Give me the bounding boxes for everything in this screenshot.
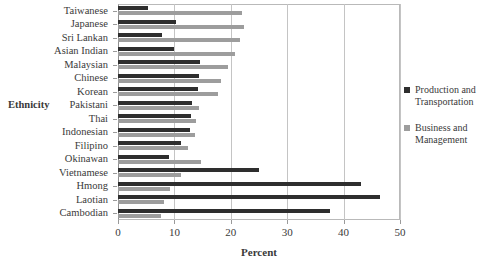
bar-business-management xyxy=(118,173,181,177)
x-axis-title: Percent xyxy=(118,246,400,258)
bar-row xyxy=(118,58,400,72)
x-tick xyxy=(118,220,119,224)
bar-business-management xyxy=(118,65,228,69)
bar-row xyxy=(118,166,400,180)
bar-business-management xyxy=(118,106,199,110)
bar-production-transportation xyxy=(118,209,330,213)
y-tick xyxy=(113,92,117,93)
bar-business-management xyxy=(118,160,201,164)
bar-row xyxy=(118,153,400,167)
bar-production-transportation xyxy=(118,74,199,78)
bar-business-management xyxy=(118,11,242,15)
y-tick-label: Vietnamese xyxy=(59,167,108,179)
y-tick-label: Taiwanese xyxy=(64,5,108,17)
bar-row xyxy=(118,4,400,18)
x-tick xyxy=(174,220,175,224)
bar-production-transportation xyxy=(118,128,190,132)
bar-row xyxy=(118,207,400,221)
y-tick xyxy=(113,159,117,160)
legend-item: Business and Management xyxy=(404,122,486,146)
y-tick-label: Indonesian xyxy=(62,126,108,138)
y-tick-label: Japanese xyxy=(71,18,108,30)
bar-production-transportation xyxy=(118,101,192,105)
legend-swatch-icon xyxy=(404,125,410,131)
y-tick-label: Thai xyxy=(89,113,108,125)
bar-row xyxy=(118,18,400,32)
y-tick-label: Hmong xyxy=(77,180,109,192)
x-tick-label: 30 xyxy=(267,226,307,238)
y-tick xyxy=(113,38,117,39)
bar-production-transportation xyxy=(118,6,148,10)
y-tick-label: Malaysian xyxy=(64,59,108,71)
y-tick xyxy=(113,146,117,147)
y-tick xyxy=(113,11,117,12)
gridline xyxy=(400,4,401,220)
y-axis-title: Ethnicity xyxy=(8,99,49,110)
bar-business-management xyxy=(118,92,218,96)
bar-row xyxy=(118,193,400,207)
bar-row xyxy=(118,31,400,45)
bar-business-management xyxy=(118,38,240,42)
y-tick xyxy=(113,119,117,120)
y-tick xyxy=(113,51,117,52)
legend-swatch-icon xyxy=(404,87,410,93)
bar-row xyxy=(118,85,400,99)
y-tick-label: Okinawan xyxy=(65,153,108,165)
bar-business-management xyxy=(118,200,164,204)
bar-row xyxy=(118,112,400,126)
y-tick xyxy=(113,173,117,174)
y-tick xyxy=(113,24,117,25)
legend-item: Production and Transportation xyxy=(404,84,486,108)
legend: Production and TransportationBusiness an… xyxy=(404,84,486,160)
bar-row xyxy=(118,45,400,59)
bar-rows xyxy=(118,4,400,220)
y-tick-label: Korean xyxy=(77,86,108,98)
x-tick xyxy=(287,220,288,224)
x-tick-label: 10 xyxy=(154,226,194,238)
y-tick xyxy=(113,186,117,187)
x-tick xyxy=(231,220,232,224)
bar-row xyxy=(118,126,400,140)
y-tick-label: Pakistani xyxy=(70,99,109,111)
bar-business-management xyxy=(118,119,196,123)
x-tick-label: 20 xyxy=(211,226,251,238)
bar-row xyxy=(118,139,400,153)
x-tick-label: 0 xyxy=(98,226,138,238)
x-tick-label: 50 xyxy=(380,226,420,238)
y-tick xyxy=(113,132,117,133)
bar-business-management xyxy=(118,79,221,83)
y-tick xyxy=(113,65,117,66)
y-tick-label: Cambodian xyxy=(60,207,108,219)
x-tick xyxy=(344,220,345,224)
y-tick-label: Chinese xyxy=(74,72,108,84)
y-tick xyxy=(113,213,117,214)
bar-business-management xyxy=(118,133,195,137)
y-tick xyxy=(113,105,117,106)
bar-business-management xyxy=(118,146,188,150)
bar-production-transportation xyxy=(118,155,169,159)
y-tick-label: Laotian xyxy=(76,194,108,206)
bar-row xyxy=(118,99,400,113)
bar-production-transportation xyxy=(118,141,181,145)
y-tick-label: Filipino xyxy=(75,140,108,152)
y-tick-label: Asian Indian xyxy=(54,45,108,57)
bar-production-transportation xyxy=(118,168,259,172)
bar-production-transportation xyxy=(118,33,162,37)
y-tick xyxy=(113,78,117,79)
bar-production-transportation xyxy=(118,114,191,118)
bar-production-transportation xyxy=(118,20,176,24)
bar-business-management xyxy=(118,52,235,56)
bar-production-transportation xyxy=(118,60,200,64)
bar-business-management xyxy=(118,187,170,191)
bar-chart: TaiwaneseJapaneseSri LankanAsian IndianM… xyxy=(0,0,486,274)
bar-production-transportation xyxy=(118,87,198,91)
bar-production-transportation xyxy=(118,195,380,199)
bar-production-transportation xyxy=(118,182,361,186)
bar-production-transportation xyxy=(118,47,174,51)
y-tick xyxy=(113,200,117,201)
x-tick-label: 40 xyxy=(324,226,364,238)
bar-row xyxy=(118,72,400,86)
y-axis-labels: TaiwaneseJapaneseSri LankanAsian IndianM… xyxy=(0,4,114,220)
x-tick xyxy=(400,220,401,224)
legend-label: Business and Management xyxy=(415,122,486,146)
